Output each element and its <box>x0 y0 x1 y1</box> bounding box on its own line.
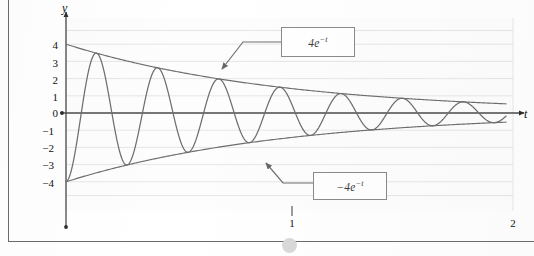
x-tick-label-2: 2 <box>503 218 523 229</box>
lower-envelope-callout-text: −4e−t <box>336 179 363 193</box>
y-tick-label-3: 3 <box>40 58 58 69</box>
y-tick-label-neg4: −4 <box>36 178 54 189</box>
y-tick-label-4: 4 <box>40 40 58 51</box>
lower-envelope-callout: −4e−t <box>313 172 387 200</box>
x-tick-label-1: 1 <box>282 218 302 229</box>
t-axis-origin-cap <box>60 111 64 115</box>
y-axis-label: y <box>62 2 67 14</box>
t-axis-label: t <box>524 108 527 120</box>
mouse-cursor-dot <box>282 238 297 253</box>
y-tick-label-1: 1 <box>40 92 58 103</box>
y-tick-label-2: 2 <box>40 75 58 86</box>
y-tick-label-neg1: −1 <box>36 126 54 137</box>
upper-envelope-callout-text: 4e−t <box>308 35 327 49</box>
y-tick-label-neg3: −3 <box>36 160 54 171</box>
y-axis-bottom-cap <box>64 225 68 229</box>
y-tick-label-0: 0 <box>40 108 58 119</box>
upper-envelope-callout: 4e−t <box>281 27 355 57</box>
plot-canvas <box>0 0 534 256</box>
y-tick-label-neg2: −2 <box>36 143 54 154</box>
figure-root: 4 3 2 1 0 −1 −2 −3 −4 1 2 y t 4e−t −4e−t <box>0 0 534 256</box>
